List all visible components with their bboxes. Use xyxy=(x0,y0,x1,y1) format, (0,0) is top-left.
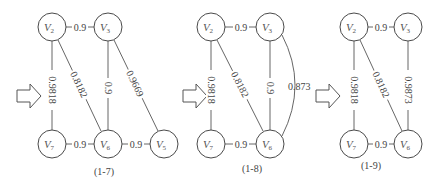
edge-label-v3-v6: 0.9 xyxy=(265,82,276,95)
edge-label-v7-v6: 0.9 xyxy=(74,139,87,150)
edge-label-v2-v7: 0.9818 xyxy=(47,76,58,104)
node-v2: V2 xyxy=(340,13,368,41)
right-arrow-icon xyxy=(183,84,207,108)
node-v6: V6 xyxy=(94,130,122,158)
node-v6: V6 xyxy=(256,130,284,158)
graph-1-8: 0.9 0.9818 0.8182 0.9 0.873 0.9 V2 V3 V7… xyxy=(197,13,311,175)
edge-label-v2-v3: 0.9 xyxy=(235,22,248,33)
node-v3: V3 xyxy=(394,13,422,41)
graph-1-7: 0.9 0.9818 0.8182 0.9 0.9669 0.9 0.9 V2 … xyxy=(38,13,178,178)
right-arrow-icon xyxy=(17,84,41,108)
caption-1-9: (1-9) xyxy=(361,160,381,172)
node-v7: V7 xyxy=(340,130,368,158)
transition-arrow-3 xyxy=(316,84,340,108)
node-v2: V2 xyxy=(197,13,225,41)
node-v7: V7 xyxy=(38,130,66,158)
edge-label-v3-v6: 0.9 xyxy=(103,82,114,95)
node-v2: V2 xyxy=(38,13,66,41)
caption-1-8: (1-8) xyxy=(242,163,262,175)
edge-label-v2-v6: 0.8182 xyxy=(229,70,251,100)
edge-label-v6-v5: 0.9 xyxy=(130,139,143,150)
edge-label-v7-v6: 0.9 xyxy=(375,139,388,150)
transition-arrow-1 xyxy=(17,84,41,108)
edge-label-v2-v3: 0.9 xyxy=(74,22,87,33)
edge-label-v2-v6: 0.8182 xyxy=(370,70,392,100)
node-v3: V3 xyxy=(94,13,122,41)
edge-label-v2-v7: 0.9818 xyxy=(206,76,217,104)
edge-label-v2-v3: 0.9 xyxy=(375,22,388,33)
edge-label-v2-v6: 0.8182 xyxy=(68,70,90,100)
node-v3: V3 xyxy=(256,13,284,41)
transition-arrow-2 xyxy=(183,84,207,108)
node-v7: V7 xyxy=(197,130,225,158)
node-v5: V5 xyxy=(150,130,178,158)
graph-1-9: 0.9 0.9818 0.8182 0.9873 0.9 V2 V3 V7 V6… xyxy=(340,13,422,172)
graph-reduction-diagram: 0.9 0.9818 0.8182 0.9 0.9669 0.9 0.9 V2 … xyxy=(0,0,433,187)
edge-label-v7-v6: 0.9 xyxy=(235,139,248,150)
right-arrow-icon xyxy=(316,84,340,108)
caption-1-7: (1-7) xyxy=(94,166,114,178)
node-v6: V6 xyxy=(394,130,422,158)
edge-label-v3-v5: 0.9669 xyxy=(124,69,146,99)
edge-label-v3-v6: 0.9873 xyxy=(403,76,414,104)
edge-label-v2-v7: 0.9818 xyxy=(349,76,360,104)
edge-label-v3-v6-curved: 0.873 xyxy=(288,81,311,92)
